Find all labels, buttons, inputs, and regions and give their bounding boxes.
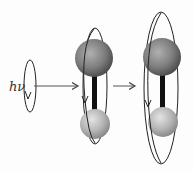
large-atom-before bbox=[75, 39, 113, 77]
small-atom-before bbox=[80, 109, 110, 139]
small-atom-after bbox=[148, 107, 178, 137]
molecule-after bbox=[143, 12, 181, 164]
photon-rotation-arrow-icon bbox=[25, 91, 31, 99]
bond-rod-after bbox=[160, 74, 165, 110]
photon-group: hν bbox=[9, 60, 36, 112]
photon-label: hν bbox=[9, 79, 25, 94]
photon-absorption-diagram: hν bbox=[0, 0, 193, 173]
orbit-front-after bbox=[148, 13, 161, 163]
bond-rod-before bbox=[92, 74, 97, 114]
molecule-before bbox=[75, 28, 113, 144]
diagram-canvas: hν bbox=[0, 0, 193, 173]
